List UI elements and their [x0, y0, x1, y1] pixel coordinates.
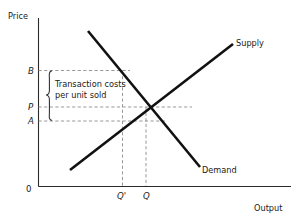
origin-label: 0: [26, 184, 31, 194]
quantity-tick-label-q: Q: [143, 191, 150, 201]
x-axis-title: Output: [254, 203, 283, 213]
supply-curve-label: Supply: [236, 38, 264, 48]
transaction-cost-annotation: Transaction costs per unit sold: [54, 79, 126, 100]
supply-demand-figure: Price Output 0 B P A Q' Q Supply Demand …: [0, 0, 301, 221]
annotation-line-2: per unit sold: [55, 90, 106, 100]
brace-icon: [46, 71, 51, 120]
y-axis-title: Price: [8, 11, 28, 21]
price-tick-label-a: A: [27, 116, 34, 126]
price-tick-label-b: B: [28, 66, 34, 76]
price-tick-label-p: P: [28, 102, 34, 112]
demand-curve-label: Demand: [202, 165, 237, 175]
quantity-tick-label-qprime: Q': [117, 191, 126, 201]
annotation-line-1: Transaction costs: [54, 79, 126, 89]
chart-canvas: Price Output 0 B P A Q' Q Supply Demand …: [0, 0, 301, 221]
curves-group: [70, 31, 233, 170]
transaction-cost-brace: [46, 71, 51, 120]
